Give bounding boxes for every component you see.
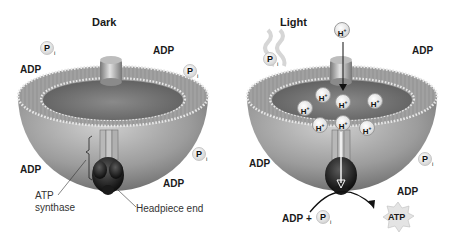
dark-title: Dark [92,16,116,28]
phosphate-symbol: P [196,149,202,159]
phosphate-subscript: i [330,219,331,225]
phosphate-molecule: P i [418,152,432,166]
adp-label: ADP [20,64,41,75]
proton: H+ [335,94,351,110]
phosphate-molecule: P i [192,147,206,161]
phosphate-subscript: i [54,50,55,56]
phosphate-subscript: i [277,61,278,67]
phosphate-subscript: i [432,161,433,167]
atp-synthase-line1: ATP [35,190,75,202]
atp-product-label: ATP [388,212,405,222]
phosphate-molecule: P i [183,64,197,78]
adp-label: ADP [397,186,418,197]
phosphate-symbol: P [44,43,50,53]
proton: H+ [334,22,350,38]
proton: H+ [297,100,313,116]
phosphate-symbol: P [422,154,428,164]
adp-label: ADP [412,45,433,56]
proton: H+ [359,120,375,136]
proton: H+ [367,93,383,109]
atp-synthase-line2: synthase [35,202,75,214]
phosphate-molecule: P i [316,210,330,224]
adp-label: ADP [20,164,41,175]
adp-label: ADP [249,158,270,169]
proton: H+ [315,87,331,103]
reaction-adp: ADP [282,213,303,224]
phosphate-symbol: P [267,54,273,64]
phosphate-subscript: i [197,73,198,79]
proton: H+ [335,115,351,131]
adp-label: ADP [153,45,174,56]
phosphate-symbol: P [187,66,193,76]
phosphate-subscript: i [206,156,207,162]
adp-label: ADP [163,178,184,189]
atp-synthase-label: ATP synthase [35,190,75,214]
light-title: Light [280,16,307,28]
phosphate-molecule: P i [263,52,277,66]
headpiece-end-label: Headpiece end [136,203,203,214]
phosphate-symbol: P [320,212,326,222]
reaction-plus: + [306,213,312,224]
phosphate-molecule: P i [40,41,54,55]
proton: H+ [312,117,328,133]
